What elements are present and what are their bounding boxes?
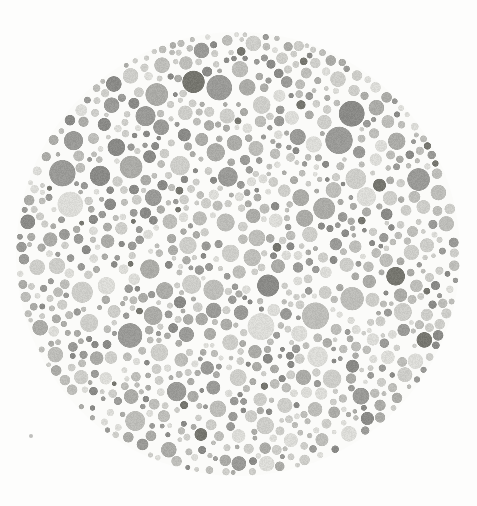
ishihara-plate-image: Ishihara color vision test plate (graysc…: [0, 0, 477, 506]
ishihara-dot-mosaic: [0, 0, 477, 506]
